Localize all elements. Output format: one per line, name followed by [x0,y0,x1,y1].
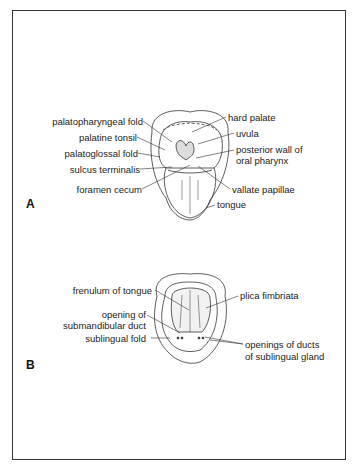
label-openings-ducts-1: openings of ducts [245,339,319,350]
label-openings-ducts-2: of sublingual gland [245,351,324,362]
mouth-b-drawing [155,274,227,364]
panel-letter-b: B [26,358,35,372]
label-posterior-wall-1: posterior wall of [236,144,303,155]
label-uvula: uvula [236,128,259,139]
label-sulcus-terminalis: sulcus terminalis [70,164,140,175]
label-palatine-tonsil: palatine tonsil [79,132,137,143]
label-palatopharyngeal-fold: palatopharyngeal fold [52,116,143,127]
panel-letter-a: A [26,197,35,211]
label-opening-submandibular-2: submandibular duct [63,320,146,331]
label-opening-submandibular-1: opening of [102,309,146,320]
mouth-illustrations [0,0,359,474]
label-foramen-cecum: foramen cecum [77,184,142,195]
label-sublingual-fold: sublingual fold [85,333,146,344]
label-palatoglossal-fold: palatoglossal fold [65,148,138,159]
label-frenulum-of-tongue: frenulum of tongue [73,285,152,296]
label-plica-fimbriata: plica fimbriata [240,290,299,301]
label-posterior-wall-2: oral pharynx [236,155,288,166]
label-hard-palate: hard palate [228,112,276,123]
label-vallate-papillae: vallate papillae [232,184,295,195]
label-tongue: tongue [217,199,246,210]
